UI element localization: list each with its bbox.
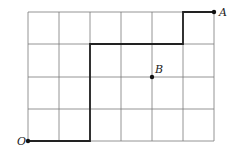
point-a-label: A [218, 6, 227, 19]
point-o-label: O [17, 135, 26, 148]
grid [28, 12, 214, 141]
grid-path-diagram: OAB [0, 0, 238, 155]
point-o-dot [26, 139, 30, 143]
point-a-dot [212, 10, 216, 14]
point-b-dot [150, 75, 154, 79]
point-b-label: B [154, 63, 163, 76]
